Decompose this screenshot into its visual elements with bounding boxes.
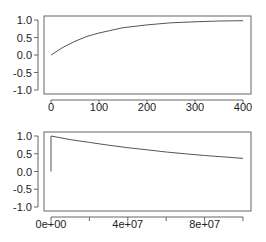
x-tick-label: 4e+07 bbox=[112, 218, 143, 230]
top-line-chart: 1.00.50.0-0.5-1.00100200300400 bbox=[13, 14, 252, 113]
y-tick-label: 0.0 bbox=[17, 49, 32, 61]
x-tick-label: 100 bbox=[90, 101, 108, 113]
chart-canvas: 1.00.50.0-0.5-1.00100200300400 1.00.50.0… bbox=[0, 0, 266, 242]
x-tick-label: 200 bbox=[138, 101, 156, 113]
data-series-line bbox=[51, 136, 243, 172]
y-tick-label: 0.5 bbox=[17, 32, 32, 44]
x-tick-label: 8e+07 bbox=[189, 218, 220, 230]
x-tick-label: 0e+00 bbox=[36, 218, 67, 230]
y-tick-label: -1.0 bbox=[13, 84, 32, 96]
plot-frame bbox=[44, 16, 251, 94]
plot-frame bbox=[44, 132, 251, 211]
y-axis: 1.00.50.0-0.5-1.0 bbox=[13, 14, 38, 96]
x-tick-label: 0 bbox=[48, 101, 54, 113]
x-axis: 0100200300400 bbox=[48, 100, 252, 113]
y-tick-label: 0.5 bbox=[17, 148, 32, 160]
y-tick-label: -0.5 bbox=[13, 67, 32, 79]
y-axis: 1.00.50.0-0.5-1.0 bbox=[13, 130, 38, 213]
y-tick-label: -1.0 bbox=[13, 201, 32, 213]
y-tick-label: 1.0 bbox=[17, 130, 32, 142]
y-tick-label: 0.0 bbox=[17, 166, 32, 178]
y-tick-label: -0.5 bbox=[13, 183, 32, 195]
x-tick-label: 300 bbox=[186, 101, 204, 113]
x-tick-label: 400 bbox=[234, 101, 252, 113]
bottom-line-chart: 1.00.50.0-0.5-1.00e+004e+078e+07 bbox=[13, 130, 251, 230]
x-axis: 0e+004e+078e+07 bbox=[36, 217, 243, 230]
y-tick-label: 1.0 bbox=[17, 14, 32, 26]
data-series-line bbox=[51, 21, 243, 55]
